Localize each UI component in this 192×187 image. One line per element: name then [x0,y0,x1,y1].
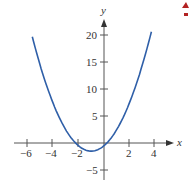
x-tick-label: 4 [151,147,157,159]
y-tick-label: 15 [86,56,98,68]
x-tick-label: 2 [126,147,132,159]
y-axis-label: y [100,4,106,16]
parabola-chart: −6 −4 −2 2 4 20 15 10 5 −5 x y [0,0,192,187]
x-tick-label: −6 [20,147,32,159]
corner-mark-icon [182,2,189,16]
x-tick-label: −4 [45,147,57,159]
x-tick-label: −2 [71,147,83,159]
x-axis-label: x [176,136,182,148]
y-axis-arrow-icon [101,19,107,27]
y-tick-label: −5 [86,164,98,176]
y-tick-label: 20 [86,29,98,41]
x-axis-arrow-icon [166,140,174,146]
y-tick-label: 10 [86,83,98,95]
y-tick-label: 5 [92,110,98,122]
